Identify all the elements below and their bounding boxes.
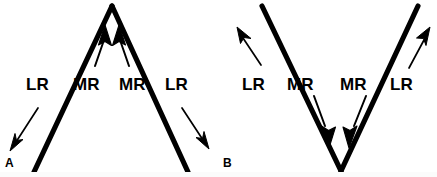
panel-a-lr-right-arrowhead [196,132,209,150]
panel-a-label-mr-right: MR [119,76,146,93]
panel-b-letter: B [223,157,232,169]
panel-a-letter: A [5,157,14,169]
panel-b-label-lr-right: LR [390,76,413,93]
panel-a: LR MR MR LR A [0,0,219,177]
figure-root: LR MR MR LR A LR MR MR LR B [0,0,437,177]
panel-b-label-mr-right: MR [340,76,367,93]
panel-b-lr-left-tail [243,38,261,65]
panel-b-label-lr-left: LR [242,76,265,93]
bottom-edge-band [0,172,437,177]
panel-b-label-mr-left: MR [287,76,314,93]
panel-b: LR MR MR LR B [218,0,437,177]
panel-a-label-lr-left: LR [26,76,49,93]
panel-a-label-lr-right: LR [165,76,188,93]
panel-a-label-mr-left: MR [73,76,100,93]
panel-b-lr-right-tail [409,40,424,68]
panel-a-lr-right-tail [182,108,203,140]
panel-a-lr-left-tail [16,108,38,142]
panel-a-lr-left-arrowhead [10,134,23,152]
